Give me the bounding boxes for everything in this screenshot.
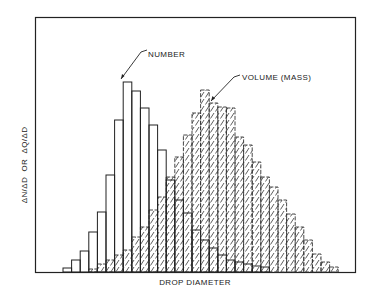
number-leader-arrow: [121, 50, 147, 79]
histogram-chart: NUMBER VOLUME (MASS) DROP DIAMETER ΔN/ΔD…: [0, 0, 369, 301]
volume-bar: [312, 254, 321, 272]
number-bar: [89, 232, 98, 272]
volume-bar: [330, 267, 339, 272]
number-bar: [63, 268, 72, 272]
volume-bar: [97, 264, 106, 272]
volume-bar: [183, 135, 192, 272]
x-axis-label: DROP DIAMETER: [159, 278, 231, 287]
volume-bar: [115, 255, 124, 272]
volume-annotation: VOLUME (MASS): [211, 73, 311, 101]
volume-bar: [132, 237, 141, 272]
number-bar: [72, 260, 81, 272]
y-axis-label: ΔN/ΔD OR ΔQ/ΔD: [20, 127, 29, 204]
volume-bar: [175, 157, 184, 272]
number-annotation: NUMBER: [121, 50, 185, 79]
number-bar: [123, 82, 132, 272]
volume-bar: [166, 177, 175, 272]
volume-bar: [209, 103, 218, 272]
volume-bar: [149, 210, 158, 272]
number-bar: [106, 175, 115, 272]
volume-arrowhead-icon: [211, 96, 215, 101]
number-bar: [115, 120, 124, 272]
volume-bar: [269, 187, 278, 272]
volume-bar: [226, 108, 235, 272]
volume-bar: [278, 200, 287, 272]
volume-bar: [106, 260, 115, 272]
number-label: NUMBER: [148, 50, 185, 59]
volume-bar: [287, 214, 296, 272]
volume-bar: [295, 227, 304, 272]
volume-bar: [123, 250, 132, 272]
number-bar: [80, 251, 89, 272]
volume-bar: [201, 90, 210, 272]
number-bar: [97, 212, 106, 272]
volume-bar: [304, 240, 313, 272]
volume-bar: [218, 107, 227, 272]
volume-bar: [261, 177, 270, 272]
volume-bar: [158, 197, 167, 272]
volume-series-bars: [89, 90, 338, 272]
volume-bar: [192, 113, 201, 272]
volume-bar: [252, 162, 261, 272]
volume-bar: [321, 262, 330, 272]
volume-bar: [140, 227, 149, 272]
volume-bar: [235, 137, 244, 272]
volume-leader-arrow: [211, 75, 240, 101]
volume-label: VOLUME (MASS): [242, 73, 311, 82]
volume-bar: [244, 145, 253, 272]
